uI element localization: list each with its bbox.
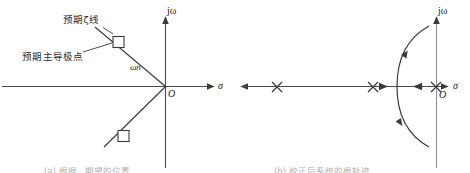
label-imaginary-axis: jω xyxy=(167,5,176,16)
zeta-ray-upper xyxy=(95,27,166,87)
left-diagram-svg xyxy=(0,0,235,173)
zeta-ray-lower xyxy=(104,87,166,148)
label-origin: O xyxy=(439,89,446,100)
leader-line-dominant-pole xyxy=(83,43,112,52)
panel-desired-pole-placement: 预期ζ线 预期主导极点 jω σ O ωn xyxy=(0,0,235,173)
caption-left: (a) 根据...期望的位置 xyxy=(44,164,130,173)
right-diagram-svg xyxy=(235,0,470,173)
label-omega-n: ωn xyxy=(130,62,141,72)
label-zeta-line: 预期ζ线 xyxy=(63,12,99,26)
label-origin: O xyxy=(168,88,175,99)
figure-pair: 预期ζ线 预期主导极点 jω σ O ωn xyxy=(0,0,470,173)
desired-pole-marker-lower xyxy=(118,131,129,142)
label-dominant-pole: 预期主导极点 xyxy=(22,49,84,63)
panel-root-locus: jω σ O xyxy=(235,0,470,173)
label-imaginary-axis: jω xyxy=(438,5,447,16)
caption-right: (b) 校正后系统的根轨迹 xyxy=(274,164,370,173)
locus-branch-upper xyxy=(397,26,429,87)
leader-line-zeta xyxy=(103,28,113,35)
desired-pole-marker-upper xyxy=(113,37,124,48)
label-real-axis: σ xyxy=(453,80,458,91)
label-real-axis: σ xyxy=(218,80,223,91)
locus-branch-lower xyxy=(397,87,429,148)
